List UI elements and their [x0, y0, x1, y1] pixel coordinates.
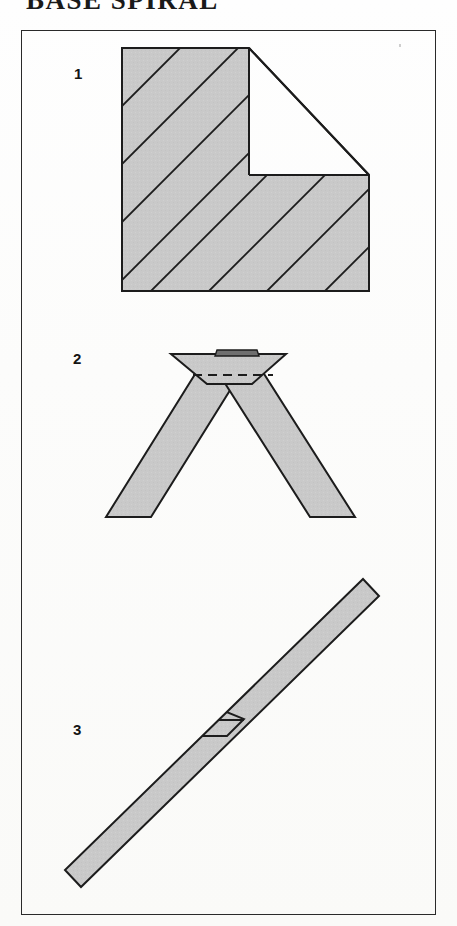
step-3-illustration [65, 579, 379, 887]
step-1-illustration [122, 30, 436, 305]
step-2-tab [215, 350, 259, 356]
page-title: BASE SPIRAL [0, 0, 457, 13]
step-number-2: 2 [73, 351, 81, 366]
page-root: BASE SPIRAL [0, 0, 457, 926]
step-2-illustration [106, 350, 355, 517]
step-number-1: 1 [74, 66, 82, 81]
step-3-strip [65, 579, 379, 887]
step-number-3: 3 [73, 722, 81, 737]
instruction-illustrations [21, 30, 436, 915]
